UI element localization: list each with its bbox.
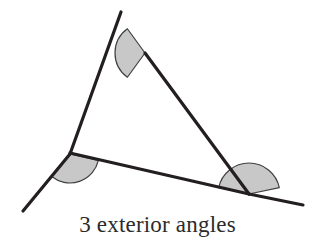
geometry-figure: 3 exterior angles <box>0 0 315 247</box>
figure-caption: 3 exterior angles <box>0 210 315 240</box>
